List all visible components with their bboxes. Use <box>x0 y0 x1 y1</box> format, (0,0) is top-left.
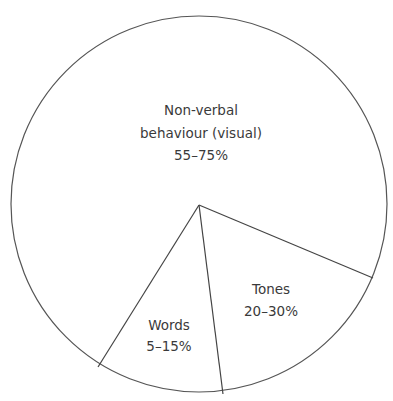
nonverbal-label-line1: Non-verbal <box>164 102 238 118</box>
words-label-line1: Words <box>148 317 190 333</box>
nonverbal-label-line2: behaviour (visual) <box>140 125 262 141</box>
pie-chart: Non-verbal behaviour (visual) 55–75% Ton… <box>0 0 393 401</box>
tones-label-line1: Tones <box>251 281 290 297</box>
pie-outline <box>11 16 387 392</box>
nonverbal-label-value: 55–75% <box>174 147 228 163</box>
tones-label-value: 20–30% <box>244 303 298 319</box>
words-label-value: 5–15% <box>146 338 192 354</box>
